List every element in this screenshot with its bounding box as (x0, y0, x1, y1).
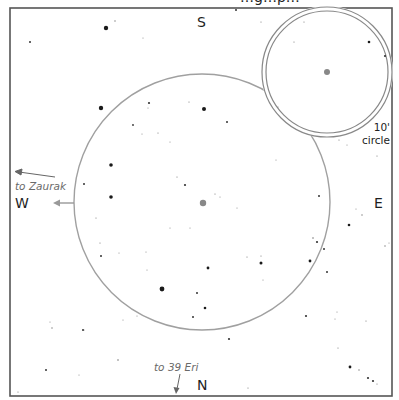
star (278, 107, 279, 108)
star (114, 20, 115, 21)
star (95, 217, 96, 218)
star (220, 197, 221, 198)
star (389, 243, 390, 244)
finder-circle-size: 10' (360, 121, 390, 134)
star (384, 245, 385, 246)
star (117, 359, 119, 361)
star (326, 271, 328, 273)
star (204, 307, 207, 310)
star (147, 270, 148, 271)
star (17, 391, 18, 392)
star-chart (0, 0, 399, 400)
star (367, 377, 369, 379)
star (356, 209, 357, 210)
star (260, 262, 263, 265)
star (260, 21, 261, 22)
star (83, 183, 85, 185)
star (303, 21, 304, 22)
direction-south: S (197, 15, 206, 29)
star (146, 252, 147, 253)
star (188, 101, 189, 102)
star (337, 347, 338, 348)
finder-circle-caption: circle (352, 134, 390, 147)
star (100, 255, 102, 257)
star (170, 228, 171, 229)
star (50, 322, 51, 323)
eri39-pointer-label: to 39 Eri (154, 362, 198, 373)
star (202, 107, 206, 111)
star (137, 316, 138, 317)
zaurak-pointer-label: to Zaurak (15, 181, 66, 192)
direction-north: N (197, 378, 207, 392)
star (196, 292, 198, 294)
star (335, 319, 336, 320)
star (384, 55, 386, 57)
star (79, 375, 80, 376)
star (348, 224, 351, 227)
star (323, 248, 325, 250)
star (170, 142, 171, 143)
star (148, 108, 149, 109)
star (104, 26, 108, 30)
star (192, 316, 194, 318)
star (372, 380, 374, 382)
star (99, 242, 100, 243)
star (132, 124, 134, 126)
star (51, 327, 52, 328)
chart-title-clipped: …g…p… (240, 0, 300, 4)
finder-circle-label: 10' circle (360, 121, 390, 147)
star (318, 195, 320, 197)
star (246, 256, 247, 257)
star (148, 102, 150, 104)
star (82, 329, 84, 331)
star (207, 267, 210, 270)
star (157, 132, 158, 133)
star (276, 160, 277, 161)
star (358, 369, 359, 370)
finder-target-object-icon (324, 69, 330, 75)
star (368, 41, 371, 44)
star (228, 338, 230, 340)
star (119, 253, 120, 254)
star (260, 255, 261, 256)
star (160, 287, 165, 292)
star (214, 193, 215, 194)
star (309, 260, 312, 263)
star (365, 320, 366, 321)
star (176, 176, 177, 177)
star (45, 369, 47, 371)
star (109, 163, 113, 167)
star (184, 184, 186, 186)
star (347, 145, 348, 146)
star (338, 139, 339, 140)
star (237, 208, 238, 209)
star (143, 38, 144, 39)
star (376, 383, 377, 384)
star (263, 280, 264, 281)
star (109, 195, 113, 199)
star (349, 366, 352, 369)
star (361, 214, 362, 215)
star (316, 241, 318, 243)
star (293, 41, 294, 42)
star (376, 155, 377, 156)
star (123, 320, 124, 321)
star (226, 121, 228, 123)
star (190, 228, 191, 229)
star (235, 9, 237, 11)
star (142, 134, 143, 135)
star (29, 41, 31, 43)
direction-east: E (374, 196, 383, 210)
star (312, 237, 314, 239)
direction-west: W (15, 196, 29, 210)
star (305, 315, 307, 317)
star (337, 312, 338, 313)
star (99, 106, 103, 110)
target-object-icon (200, 200, 206, 206)
star (247, 387, 248, 388)
